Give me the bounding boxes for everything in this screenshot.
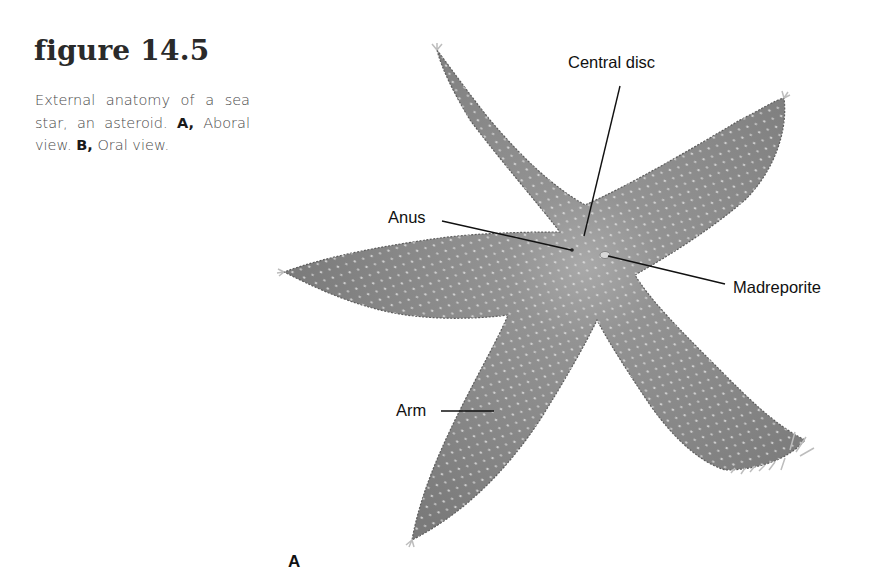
label-anus: Anus	[388, 208, 426, 227]
madreporite-plate	[600, 252, 610, 259]
label-madreporite: Madreporite	[733, 278, 821, 297]
sea-star-spines-texture	[284, 50, 805, 540]
label-central-disc: Central disc	[568, 53, 655, 72]
panel-label-a: A	[288, 552, 300, 572]
label-arm: Arm	[396, 401, 426, 420]
